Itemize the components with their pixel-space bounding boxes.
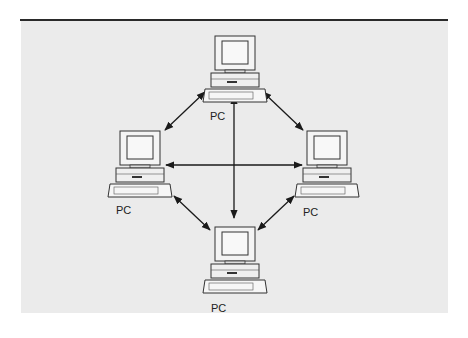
network-diagram	[0, 0, 468, 338]
edge-top-right	[263, 92, 303, 130]
edge-top-left	[165, 92, 205, 130]
edge-right-bottom	[258, 196, 294, 230]
pc-icon-bottom	[203, 227, 267, 293]
pc-label-left: PC	[116, 204, 131, 216]
pc-label-right: PC	[303, 206, 318, 218]
pc-icon-right	[295, 131, 359, 197]
pc-icon-left	[108, 131, 172, 197]
edge-left-bottom	[174, 196, 210, 230]
connection-lines	[165, 92, 303, 230]
pc-label-bottom: PC	[211, 302, 226, 314]
pc-label-top: PC	[210, 110, 225, 122]
pc-icon-top	[203, 36, 267, 102]
